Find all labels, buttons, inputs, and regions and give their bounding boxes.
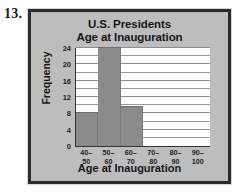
bar-slot [188, 48, 210, 146]
bar-slot [98, 48, 120, 146]
x-axis-title: Age at Inauguration [31, 162, 228, 174]
y-tick-label: 0 [67, 142, 71, 151]
y-tick-label: 8 [67, 109, 71, 118]
y-tick-label: 4 [67, 125, 71, 134]
y-tick-label: 16 [63, 76, 71, 85]
chart-title: U.S. Presidents Age at Inauguration [31, 18, 228, 43]
y-tick-label: 24 [63, 44, 71, 53]
bar-series [76, 48, 210, 146]
bar-slot [143, 48, 165, 146]
chart-title-line2: Age at Inauguration [31, 31, 228, 44]
bar-slot [76, 48, 98, 146]
y-axis-tick-labels: 04812162024 [51, 48, 73, 146]
figure-frame: U.S. Presidents Age at Inauguration Freq… [28, 9, 231, 184]
bar-slot [165, 48, 187, 146]
y-tick-label: 20 [63, 60, 71, 69]
y-tick-label: 12 [63, 93, 71, 102]
plot-area [75, 48, 210, 147]
bar [98, 47, 120, 146]
problem-number: 13. [4, 6, 22, 22]
bar-slot [121, 48, 143, 146]
figure-panel: U.S. Presidents Age at Inauguration Freq… [31, 12, 228, 181]
bar [121, 106, 143, 146]
chart-title-line1: U.S. Presidents [88, 18, 171, 30]
bar [76, 112, 98, 146]
